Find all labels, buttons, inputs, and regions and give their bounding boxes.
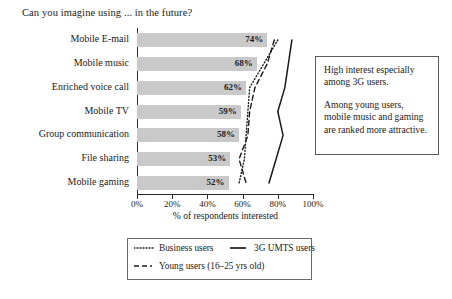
legend-label-umts: 3G UMTS users	[254, 243, 315, 253]
legend-item-business: Business users	[134, 243, 214, 253]
annotation-spacer	[324, 89, 430, 99]
line-series-dashed	[239, 40, 274, 183]
category-label: File sharing	[82, 152, 130, 163]
annotation-paragraph-2: Among young users, mobile music and gami…	[324, 99, 430, 136]
x-tick-label: 100%	[303, 199, 324, 209]
annotation-paragraph-1: High interest especially among 3G users.	[324, 64, 430, 89]
legend-label-young: Young users (16–25 yrs old)	[159, 261, 264, 271]
x-tick-label: 20%	[164, 199, 181, 209]
category-label: Mobile music	[74, 57, 129, 68]
legend: Business users 3G UMTS users Young users…	[127, 238, 312, 280]
category-label: Mobile E-mail	[70, 33, 129, 44]
line-series-dotted	[239, 40, 278, 183]
line-series-solid	[269, 40, 292, 183]
dotted-line-icon	[134, 244, 154, 252]
chart-root: Can you imagine using ... in the future?…	[0, 0, 452, 299]
solid-line-icon	[229, 244, 249, 252]
category-label: Mobile TV	[84, 105, 129, 116]
category-label: Mobile gaming	[68, 176, 129, 187]
legend-label-business: Business users	[159, 243, 214, 253]
x-tick-label: 80%	[270, 199, 287, 209]
x-axis-caption: % of respondents interested	[137, 211, 314, 221]
annotation-box: High interest especially among 3G users.…	[315, 56, 439, 155]
legend-item-umts: 3G UMTS users	[229, 243, 315, 253]
category-label: Enriched voice call	[52, 81, 129, 92]
legend-item-young: Young users (16–25 yrs old)	[134, 261, 264, 271]
line-series-overlay	[137, 28, 313, 195]
x-tick-label: 60%	[234, 199, 251, 209]
chart-title: Can you imagine using ... in the future?	[22, 7, 192, 18]
x-tick-label: 40%	[199, 199, 216, 209]
category-label: Group communication	[39, 128, 129, 139]
x-tick-label: 0%	[131, 199, 143, 209]
dashed-line-icon	[134, 262, 154, 270]
